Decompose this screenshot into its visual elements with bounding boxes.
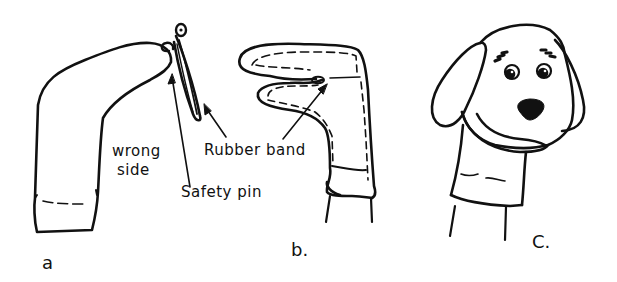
arm-left bbox=[326, 196, 330, 222]
right-eye-icon bbox=[537, 64, 551, 78]
label-side: side bbox=[117, 161, 150, 179]
upper-jaw-outline bbox=[239, 44, 375, 198]
figure-a-caption: a bbox=[42, 252, 53, 273]
illustration: wrong side Safety pin Rubber band a b. bbox=[0, 0, 617, 282]
right-dashed-seam bbox=[361, 82, 368, 180]
diagram-canvas: wrong side Safety pin Rubber band a b. bbox=[0, 0, 617, 282]
label-wrong: wrong bbox=[112, 142, 161, 160]
upper-dashed-inner bbox=[256, 65, 310, 70]
sock-neck-left bbox=[451, 125, 463, 195]
fold-line bbox=[330, 77, 360, 78]
cuff-line bbox=[43, 201, 85, 204]
cuff-inner-line bbox=[332, 166, 366, 170]
left-eye-icon bbox=[505, 65, 519, 79]
figure-c bbox=[432, 25, 584, 240]
wrinkle-2 bbox=[486, 178, 505, 181]
sock-cuff-bottom bbox=[451, 195, 522, 206]
lower-jaw-outline bbox=[258, 80, 372, 198]
label-safety-pin: Safety pin bbox=[181, 183, 262, 201]
figure-c-caption: C. bbox=[532, 231, 550, 252]
sock-outline bbox=[34, 43, 171, 232]
arm-left-c bbox=[450, 206, 455, 236]
safety-pin-arrowhead bbox=[168, 74, 175, 84]
arm-right bbox=[371, 198, 372, 222]
cuff-step bbox=[35, 190, 97, 198]
dog-right-ear bbox=[555, 40, 584, 131]
figure-b-caption: b. bbox=[291, 239, 308, 260]
dog-nose-icon bbox=[518, 99, 544, 120]
upper-dashed-seam bbox=[252, 52, 357, 72]
sock-neck-right bbox=[522, 152, 526, 205]
lower-dashed-seam bbox=[268, 85, 318, 96]
label-rubber-band: Rubber band bbox=[204, 141, 306, 159]
wrinkle-1 bbox=[461, 174, 478, 176]
arm-right-c bbox=[505, 207, 506, 240]
left-eyelashes-icon bbox=[495, 52, 507, 61]
right-eyelashes-icon bbox=[541, 50, 555, 57]
rubber-band-arrowhead-b bbox=[318, 84, 327, 94]
